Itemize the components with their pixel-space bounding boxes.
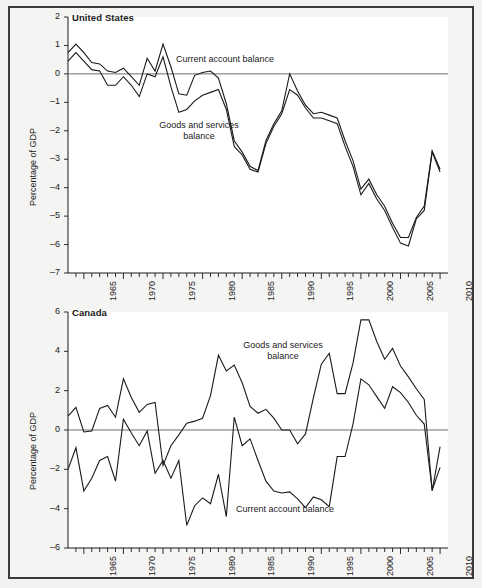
x-tick-label: 1970	[147, 556, 157, 576]
series-line-goods-and-services-balance	[68, 53, 440, 246]
x-tick-label: 1965	[108, 281, 118, 301]
y-tick-label: 1	[34, 39, 60, 49]
annotation-goods-and-services-balance-ca: Goods and services balance	[223, 340, 343, 362]
figure-container: United States Percentage of GDP Current …	[0, 0, 482, 588]
annotation-line-1: Goods and services	[159, 120, 239, 130]
x-tick-label: 1995	[345, 281, 355, 301]
x-tick-label: 1965	[108, 556, 118, 576]
y-tick-label: 6	[34, 306, 60, 316]
y-tick-label: 2	[34, 385, 60, 395]
x-tick-label: 2005	[425, 556, 435, 576]
annotation-goods-and-services-balance-us: Goods and services balance	[139, 120, 259, 142]
x-tick-label: 1975	[187, 556, 197, 576]
x-tick-label: 1980	[227, 556, 237, 576]
y-tick-label: –6	[34, 239, 60, 249]
y-tick-label: –2	[34, 125, 60, 135]
x-tick-label: 1980	[227, 281, 237, 301]
y-tick-label: –6	[34, 542, 60, 552]
y-tick-label: –1	[34, 96, 60, 106]
annotation-text: Current account balance	[176, 54, 274, 64]
x-tick-label: 1995	[345, 556, 355, 576]
x-tick-label: 1970	[147, 281, 157, 301]
x-tick-label: 2010	[464, 281, 474, 301]
annotation-text: Current account balance	[236, 504, 334, 514]
x-tick-label: 2005	[425, 281, 435, 301]
annotation-current-account-balance-ca: Current account balance	[236, 504, 334, 515]
y-tick-label: –7	[34, 267, 60, 277]
x-tick-label: 1975	[187, 281, 197, 301]
y-tick-label: –3	[34, 153, 60, 163]
annotation-line-2: balance	[267, 351, 299, 361]
x-tick-label: 2010	[464, 556, 474, 576]
annotation-line-2: balance	[183, 131, 215, 141]
x-tick-label: 1985	[266, 556, 276, 576]
chart-svg-united-states	[8, 6, 474, 298]
x-tick-label: 1985	[266, 281, 276, 301]
x-tick-label: 2000	[385, 556, 395, 576]
y-tick-label: 0	[34, 68, 60, 78]
y-tick-label: –4	[34, 503, 60, 513]
y-tick-label: –2	[34, 463, 60, 473]
annotation-line-1: Goods and services	[243, 340, 323, 350]
x-tick-label: 1990	[306, 556, 316, 576]
x-tick-label: 2000	[385, 281, 395, 301]
y-tick-label: 4	[34, 345, 60, 355]
y-tick-label: –5	[34, 210, 60, 220]
panel-united-states: United States Percentage of GDP Current …	[8, 6, 474, 298]
y-tick-label: –4	[34, 182, 60, 192]
y-tick-label: 0	[34, 424, 60, 434]
y-tick-label: 2	[34, 11, 60, 21]
panel-canada: Canada Percentage of GDP Goods and servi…	[8, 300, 474, 579]
x-tick-label: 1990	[306, 281, 316, 301]
annotation-current-account-balance-us: Current account balance	[176, 54, 274, 65]
